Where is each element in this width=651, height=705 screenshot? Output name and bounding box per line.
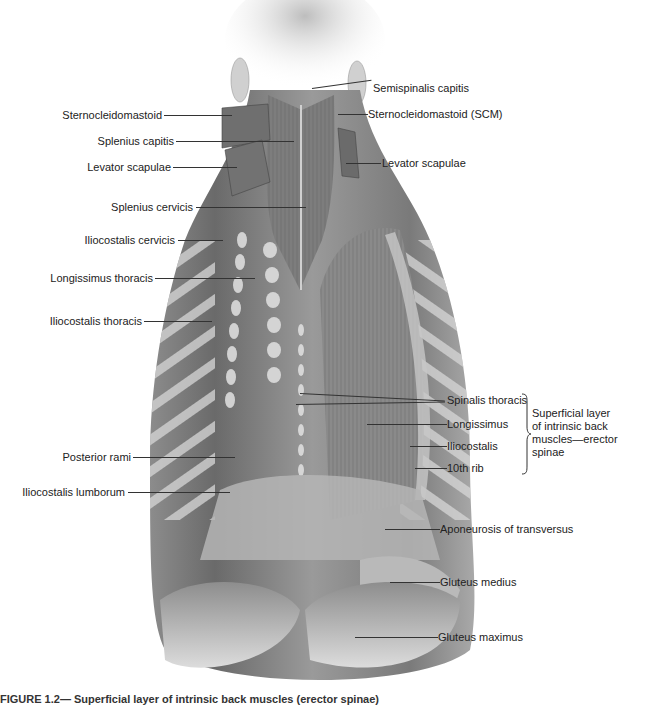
label-splenius-capitis: Splenius capitis <box>98 135 174 148</box>
label-iliocostalis-lumborum: Iliocostalis lumborum <box>22 486 125 499</box>
left-ear <box>231 58 249 102</box>
leader-line <box>390 582 440 583</box>
leader-line <box>155 278 255 279</box>
label-iliocostalis-thoracis: Iliocostalis thoracis <box>50 315 142 328</box>
leader-line <box>128 492 230 493</box>
group-label-line: muscles—erector <box>532 433 618 446</box>
leader-line <box>415 468 447 469</box>
label-sternocleidomastoid-left: Sternocleidomastoid <box>62 109 162 122</box>
brace-icon <box>520 393 532 475</box>
leader-line <box>178 240 223 241</box>
label-gluteus-maximus: Gluteus maximus <box>438 631 523 644</box>
label-iliocostalis-cervicis: Iliocostalis cervicis <box>85 234 175 247</box>
label-aponeurosis-of-transversus: Aponeurosis of transversus <box>440 523 573 536</box>
leader-line <box>176 141 294 142</box>
leader-line <box>355 637 438 638</box>
label-levator-scapulae-left: Levator scapulae <box>87 161 171 174</box>
label-posterior-rami: Posterior rami <box>63 451 131 464</box>
label-spinalis-thoracis: Spinalis thoracis <box>447 394 527 407</box>
figure-caption: FIGURE 1.2— Superficial layer of intrins… <box>0 693 379 705</box>
leader-line <box>385 529 440 530</box>
leader-line <box>133 457 235 458</box>
label-gluteus-medius: Gluteus medius <box>440 576 516 589</box>
erector-spinae-group-label: Superficial layer of intrinsic back musc… <box>532 407 618 459</box>
leader-line <box>410 446 447 447</box>
label-sternocleidomastoid-scm: Sternocleidomastoid (SCM) <box>368 108 503 121</box>
label-iliocostalis: Iliocostalis <box>447 440 498 453</box>
group-label-line: of intrinsic back <box>532 420 618 433</box>
leader-line <box>164 115 232 116</box>
label-longissimus-thoracis: Longissimus thoracis <box>50 272 153 285</box>
thoracolumbar-fascia <box>200 475 440 560</box>
leader-line <box>173 167 237 168</box>
label-levator-scapulae-right: Levator scapulae <box>382 157 466 170</box>
leader-line <box>144 321 212 322</box>
leader-line <box>338 114 368 115</box>
leader-line <box>367 424 447 425</box>
label-longissimus: Longissimus <box>447 418 508 431</box>
leader-line <box>346 163 381 164</box>
group-label-line: Superficial layer <box>532 407 618 420</box>
label-splenius-cervicis: Splenius cervicis <box>111 201 193 214</box>
label-10th-rib: 10th rib <box>447 462 484 475</box>
leader-line <box>196 207 306 208</box>
label-semispinalis-capitis: Semispinalis capitis <box>373 82 469 95</box>
group-label-line: spinae <box>532 446 618 459</box>
